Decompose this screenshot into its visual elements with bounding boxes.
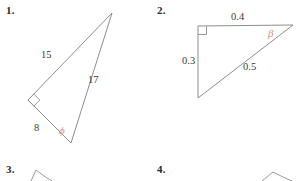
right-angle-marker-1 <box>28 94 40 106</box>
figure-problem-2 <box>0 0 296 181</box>
problem-number-4: 4. <box>157 163 166 175</box>
figure-problem-3 <box>0 0 296 181</box>
angle-label-phi: ϕ <box>59 124 65 136</box>
angle-label-beta: β <box>268 27 273 39</box>
partial-triangle-3 <box>31 170 52 181</box>
side-label-8: 8 <box>34 122 39 133</box>
partial-triangle-4 <box>262 172 292 181</box>
problem-number-1: 1. <box>6 4 15 16</box>
side-label-15: 15 <box>41 49 52 60</box>
problem-number-2: 2. <box>157 4 166 16</box>
side-label-17: 17 <box>88 74 99 85</box>
problem-number-3: 3. <box>6 163 15 175</box>
triangle-outline-1 <box>28 13 112 143</box>
right-angle-marker-2 <box>198 26 207 35</box>
side-label-0-3: 0.3 <box>182 55 195 66</box>
worksheet-page: 1. 15 17 8 ϕ 2. 0.4 0.3 0.5 β 3. 4. <box>0 0 296 181</box>
side-label-0-5: 0.5 <box>243 61 256 72</box>
figure-problem-4 <box>0 0 296 181</box>
figure-problem-1 <box>0 0 296 181</box>
side-label-0-4: 0.4 <box>231 11 244 22</box>
